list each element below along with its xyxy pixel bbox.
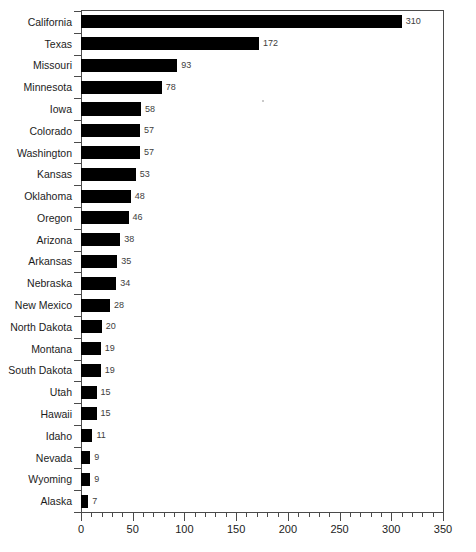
category-axis-labels: CaliforniaTexasMissouriMinnesotaIowaColo… [0,11,76,512]
value-tick-minor [319,513,320,517]
category-label: Oregon [0,207,76,229]
bar-row: 57 [81,120,443,142]
bar [81,124,140,137]
bar [81,342,101,355]
bar-row: 38 [81,229,443,251]
category-tick [74,468,81,469]
value-tick-minor [309,513,310,517]
value-tick-label: 100 [175,523,193,535]
category-tick [74,76,81,77]
value-tick-label: 300 [382,523,400,535]
bar-row: 78 [81,76,443,98]
value-tick-minor [226,513,227,517]
category-label: Alaska [0,490,76,512]
value-tick-minor [257,513,258,517]
value-tick-minor [205,513,206,517]
category-tick [74,98,81,99]
category-tick [74,163,81,164]
category-tick [74,425,81,426]
bar-value-label: 20 [106,322,116,331]
bar [81,37,259,50]
category-label: Idaho [0,425,76,447]
bar-row: 58 [81,98,443,120]
value-tick-minor [91,513,92,517]
bar-value-label: 9 [94,475,99,484]
value-tick-minor [174,513,175,517]
bar-value-label: 7 [92,497,97,506]
bar [81,364,101,377]
bar-row: 9 [81,447,443,469]
category-label: Wyoming [0,468,76,490]
bar-value-label: 78 [166,83,176,92]
category-tick [74,338,81,339]
bar-row: 53 [81,163,443,185]
category-tick [74,272,81,273]
category-tick [74,447,81,448]
bar [81,255,117,268]
bar-value-label: 58 [145,105,155,114]
bar [81,81,162,94]
category-tick [74,229,81,230]
bar [81,146,140,159]
value-tick-major [340,513,341,521]
bar [81,299,110,312]
bar-row: 35 [81,251,443,273]
bar-value-label: 46 [133,213,143,222]
bar-value-label: 48 [135,192,145,201]
category-label: South Dakota [0,360,76,382]
bar-value-label: 28 [114,301,124,310]
category-tick [74,512,81,513]
value-tick-minor [164,513,165,517]
category-tick [74,142,81,143]
value-tick-minor [360,513,361,517]
category-tick [74,11,81,12]
value-tick-minor [122,513,123,517]
category-label: Utah [0,381,76,403]
category-tick [74,403,81,404]
category-tick [74,33,81,34]
bar-value-label: 310 [406,17,421,26]
bar [81,473,90,486]
bar-row: 28 [81,294,443,316]
value-tick-label: 350 [434,523,452,535]
bar-value-label: 34 [120,279,130,288]
category-tick [74,251,81,252]
bar [81,168,136,181]
category-label: Colorado [0,120,76,142]
bar-row: 93 [81,55,443,77]
value-tick-label: 50 [127,523,139,535]
bar-row: 19 [81,360,443,382]
category-tick [74,360,81,361]
value-tick-minor [278,513,279,517]
bar-row: 11 [81,425,443,447]
category-label: North Dakota [0,316,76,338]
bar [81,386,97,399]
category-label: Washington [0,142,76,164]
value-tick-minor [381,513,382,517]
bar-row: 172 [81,33,443,55]
bar-value-label: 93 [181,61,191,70]
bar [81,407,97,420]
category-tick [74,294,81,295]
category-label: Texas [0,33,76,55]
category-tick [74,120,81,121]
value-tick-minor [422,513,423,517]
value-tick-minor [143,513,144,517]
value-tick-label: 150 [227,523,245,535]
category-label: Minnesota [0,76,76,98]
category-label: Arkansas [0,251,76,273]
bar-row: 20 [81,316,443,338]
bar [81,233,120,246]
bar [81,277,116,290]
bar-value-label: 35 [121,257,131,266]
bar [81,451,90,464]
category-tick [74,207,81,208]
bar-value-label: 38 [124,235,134,244]
value-tick-minor [102,513,103,517]
bar-value-label: 19 [105,366,115,375]
category-label: Oklahoma [0,185,76,207]
category-label: Montana [0,338,76,360]
value-tick-minor [412,513,413,517]
category-label: Arizona [0,229,76,251]
bar [81,190,131,203]
